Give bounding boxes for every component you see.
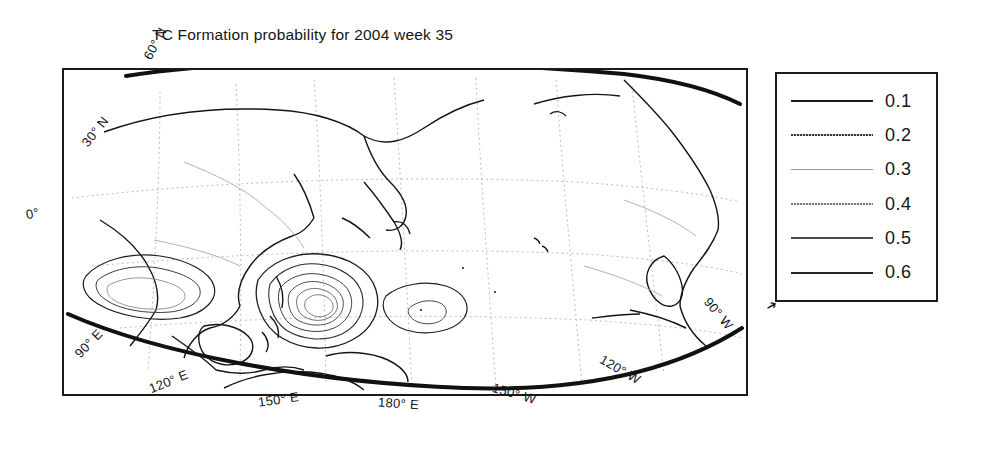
legend-panel[interactable]: 0.1 0.2 0.3 0.4 [775,72,938,302]
lat-label-0: 0° [25,205,41,222]
map-graphic [64,70,746,394]
legend-line-swatch [791,130,873,140]
legend-item-0.3[interactable]: 0.3 [777,156,936,184]
political-boundaries [154,162,696,296]
graticule-lines [72,78,742,388]
legend-item-label: 0.1 [885,91,912,112]
legend-item-label: 0.6 [885,262,912,283]
legend-item-0.6[interactable]: 0.6 [777,259,936,287]
projection-boundary [68,70,742,388]
lon-label-180e: 180° E [378,395,420,413]
map-plot-area[interactable] [62,68,748,396]
legend-item-0.5[interactable]: 0.5 [777,224,936,252]
legend-line-swatch [791,233,873,243]
legend-line-swatch [791,96,873,106]
legend-item-0.1[interactable]: 0.1 [777,87,936,115]
legend-item-0.2[interactable]: 0.2 [777,121,936,149]
contour-bullseye-main [256,254,377,348]
legend-item-label: 0.5 [885,228,912,249]
legend-item-label: 0.4 [885,194,912,215]
legend-line-swatch [791,268,873,278]
contour-cell-central-pacific [383,283,467,332]
legend-item-0.4[interactable]: 0.4 [777,190,936,218]
figure-canvas: TC Formation probability for 2004 week 3… [0,0,990,462]
legend-list: 0.1 0.2 0.3 0.4 [777,74,936,300]
legend-line-swatch [791,165,873,175]
legend-item-label: 0.3 [885,159,912,180]
page-title: TC Formation probability for 2004 week 3… [152,26,453,44]
legend-item-label: 0.2 [885,125,912,146]
legend-line-swatch [791,199,873,209]
